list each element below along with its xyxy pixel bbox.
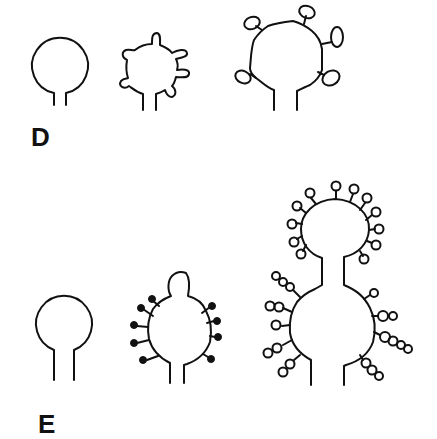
structure-d2 xyxy=(120,33,189,110)
panel-label-e: E xyxy=(38,411,55,437)
structure-e1 xyxy=(36,296,92,380)
panel-label-d: D xyxy=(31,124,50,150)
diagram-canvas xyxy=(0,0,437,439)
structure-e2 xyxy=(131,272,222,383)
structure-d3 xyxy=(233,4,343,110)
structure-d1 xyxy=(32,38,88,105)
structure-e3 xyxy=(264,182,413,386)
